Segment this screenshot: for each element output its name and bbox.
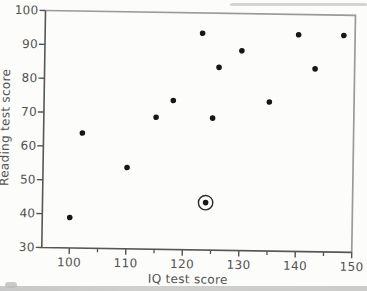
- data-point: [124, 165, 130, 171]
- data-point: [67, 215, 73, 221]
- plot-area: 10011012013014015030405060708090100IQ te…: [0, 0, 367, 291]
- y-tick-label: 40: [19, 206, 35, 220]
- x-tick-label: 110: [114, 256, 138, 270]
- y-tick-label: 80: [21, 71, 37, 85]
- plot-frame-top-right: [42, 10, 356, 252]
- x-tick-label: 140: [283, 259, 307, 273]
- data-point: [200, 30, 206, 36]
- x-tick-label: 150: [340, 260, 364, 274]
- data-point: [267, 99, 273, 105]
- data-point: [170, 98, 176, 104]
- y-tick-label: 90: [22, 37, 38, 51]
- y-tick-label: 60: [20, 139, 36, 153]
- data-point: [216, 65, 222, 71]
- data-point: [153, 114, 159, 120]
- data-point: [341, 33, 347, 39]
- scatter-figure: 10011012013014015030405060708090100IQ te…: [0, 0, 367, 291]
- data-point: [312, 66, 318, 72]
- plot-frame-axes: [42, 10, 356, 252]
- y-tick-label: 70: [21, 105, 37, 119]
- x-tick-label: 130: [227, 258, 251, 272]
- data-point: [203, 200, 209, 206]
- x-axis-label: IQ test score: [148, 272, 228, 287]
- y-tick-label: 30: [19, 240, 35, 254]
- x-tick-label: 100: [57, 255, 81, 269]
- scatter-plot-canvas: 10011012013014015030405060708090100IQ te…: [0, 0, 367, 291]
- y-tick-label: 100: [15, 3, 39, 17]
- data-point: [296, 32, 302, 38]
- y-tick-label: 50: [20, 172, 36, 186]
- data-point: [239, 48, 245, 54]
- y-axis-label: Reading test score: [0, 69, 13, 186]
- data-point: [210, 115, 216, 121]
- data-point: [80, 130, 86, 136]
- x-tick-label: 120: [170, 257, 194, 271]
